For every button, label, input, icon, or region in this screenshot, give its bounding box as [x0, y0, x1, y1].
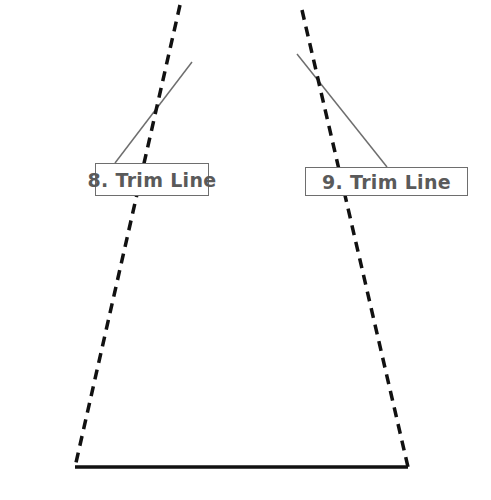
leader-line-9 [297, 54, 387, 167]
trim-line-diagram [0, 0, 491, 500]
label-trim-line-8: 8. Trim Line [95, 163, 209, 196]
label-trim-line-9: 9. Trim Line [305, 167, 468, 196]
label-trim-line-8-text: 8. Trim Line [88, 169, 217, 191]
leader-line-8 [115, 62, 192, 163]
left-dashed-trim-line [75, 5, 180, 467]
label-trim-line-9-text: 9. Trim Line [322, 171, 451, 193]
right-dashed-trim-line [302, 10, 408, 467]
